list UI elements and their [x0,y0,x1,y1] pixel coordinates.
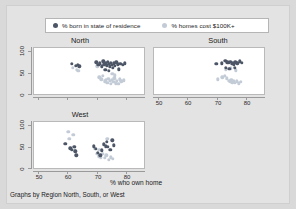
panel-north: North 0 50 100 [15,36,145,106]
scatter-point [220,62,223,65]
panel-title-north: North [15,36,145,45]
chart-figure: % born in state of residence % homes cos… [0,0,296,209]
panel-west: West 0 50 100 50 60 70 80 [15,110,145,182]
panel-title-south: South [151,36,285,45]
scatter-point [228,67,231,70]
y-tick-label-north-100: 100 [19,46,25,56]
x-tick-north-60 [67,97,68,100]
chart-canvas: % born in state of residence % homes cos… [6,5,290,204]
scatter-point [117,68,120,71]
panel-title-west: West [15,110,145,119]
x-tick-label-south-80: 80 [244,100,251,106]
plot-area-north [33,47,145,95]
legend-item-born-in-state[interactable]: % born in state of residence [53,19,140,32]
chart-footnote: Graphs by Region North, South, or West [10,191,125,198]
y-axis-north [31,47,32,95]
scatter-point [68,137,71,140]
scatter-point [105,140,108,143]
y-tick-north-100 [28,51,31,52]
y-tick-north-50 [28,73,31,74]
scatter-point [75,154,78,157]
scatter-point [70,62,73,65]
scatter-point [72,133,75,136]
scatter-point [103,156,106,159]
plot-area-west [33,121,145,169]
scatter-point [123,62,126,65]
x-tick-label-west-50: 50 [36,174,43,180]
scatter-point [111,66,114,69]
x-tick-north-70 [97,97,98,100]
scatter-point [216,78,219,81]
x-tick-label-south-60: 60 [185,100,192,106]
scatter-point [111,157,114,160]
x-axis-west [33,171,145,172]
scatter-point [64,142,67,145]
y-tick-west-0 [28,168,31,169]
scatter-point [239,80,242,83]
legend-label-homes-cost: % homes cost $100K+ [171,22,234,29]
scatter-point [108,148,111,151]
scatter-point [113,73,116,76]
y-tick-west-50 [28,147,31,148]
x-tick-label-west-60: 60 [65,174,72,180]
y-tick-label-west-100: 100 [19,120,25,130]
scatter-point [77,69,80,72]
plot-area-south [153,47,265,95]
y-tick-label-north-0: 0 [19,93,25,96]
scatter-point [117,82,120,85]
scatter-point [105,154,108,157]
panel-south: South 50 60 70 80 [151,36,285,106]
scatter-point [215,62,218,65]
x-axis-south [153,97,265,98]
x-tick-north-50 [38,97,39,100]
x-axis-title: % who own home [110,179,162,186]
scatter-point [110,139,113,142]
legend-marker-born-in-state [53,23,58,28]
y-axis-west [31,121,32,169]
scatter-point [122,78,125,81]
y-tick-label-north-50: 50 [19,70,25,77]
scatter-point [112,144,115,147]
scatter-point [74,150,77,153]
x-tick-label-south-70: 70 [215,100,222,106]
y-tick-west-100 [28,125,31,126]
scatter-point [77,65,80,68]
legend-marker-homes-cost [162,23,167,28]
scatter-point [234,68,237,71]
scatter-point [240,61,243,64]
x-tick-label-south-50: 50 [156,100,163,106]
legend-item-homes-cost[interactable]: % homes cost $100K+ [162,19,234,32]
legend-label-born-in-state: % born in state of residence [62,22,140,29]
chart-legend: % born in state of residence % homes cos… [45,18,269,33]
y-tick-north-0 [28,94,31,95]
y-tick-label-west-50: 50 [19,144,25,151]
y-tick-label-west-0: 0 [19,167,25,170]
x-tick-label-west-70: 70 [95,174,102,180]
x-tick-north-80 [126,97,127,100]
scatter-point [71,66,74,69]
scatter-point [66,130,69,133]
scatter-point [101,74,104,77]
x-axis-north [33,97,145,98]
